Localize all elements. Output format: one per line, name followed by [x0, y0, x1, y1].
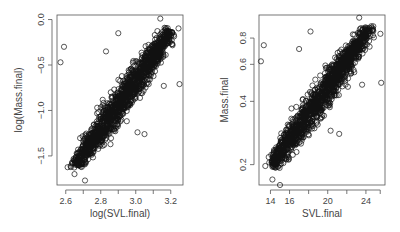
right-points — [258, 15, 384, 187]
svg-text:−0.5: −0.5 — [36, 56, 46, 74]
right-x-label: SVL.final — [302, 208, 342, 219]
svg-text:20: 20 — [323, 196, 333, 206]
right-y-axis: 0.20.40.60.8 — [238, 32, 254, 171]
left-points — [58, 16, 182, 183]
left-x-label: log(SVL.final) — [90, 208, 150, 219]
right-scatter-panel: 14162024 0.20.40.60.8 SVL.final Mass.fin… — [219, 15, 385, 219]
left-x-axis: 2.62.83.03.2 — [59, 190, 177, 206]
svg-text:−1.0: −1.0 — [36, 102, 46, 120]
svg-text:0.4: 0.4 — [238, 95, 248, 108]
svg-text:3.2: 3.2 — [164, 196, 177, 206]
svg-text:2.8: 2.8 — [94, 196, 107, 206]
right-x-axis: 14162024 — [265, 190, 380, 206]
svg-text:0.6: 0.6 — [238, 58, 248, 71]
svg-text:3.0: 3.0 — [129, 196, 142, 206]
left-scatter-panel: 2.62.83.03.2 −1.5−1.0−0.50.0 log(SVL.fin… — [13, 13, 183, 219]
svg-text:0.2: 0.2 — [238, 158, 248, 171]
left-y-label: log(Mass.final) — [13, 67, 24, 132]
svg-text:16: 16 — [285, 196, 295, 206]
svg-text:0.0: 0.0 — [36, 13, 46, 26]
left-y-axis: −1.5−1.0−0.50.0 — [36, 13, 52, 165]
svg-text:2.6: 2.6 — [59, 196, 72, 206]
svg-text:−1.5: −1.5 — [36, 147, 46, 165]
figure: 2.62.83.03.2 −1.5−1.0−0.50.0 log(SVL.fin… — [0, 0, 400, 232]
svg-text:24: 24 — [361, 196, 371, 206]
right-y-label: Mass.final — [219, 77, 230, 122]
svg-text:14: 14 — [265, 196, 275, 206]
svg-text:0.8: 0.8 — [238, 32, 248, 45]
